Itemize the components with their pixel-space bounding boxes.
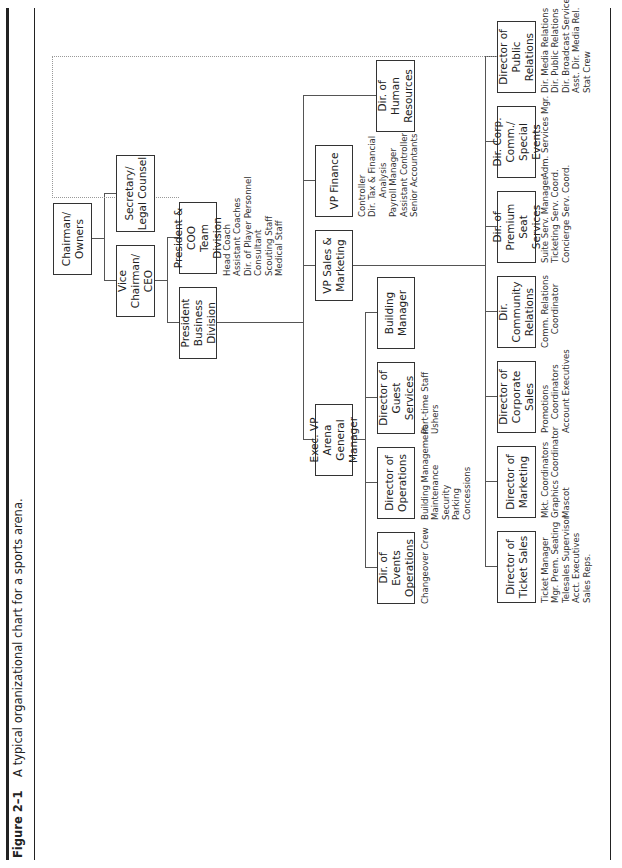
connector [155, 280, 167, 281]
connector [167, 322, 179, 323]
staff-operations: Building Management Maintenance Security… [420, 426, 472, 520]
staff-corporate-sales: Promotions Coordinators Account Executiv… [540, 349, 571, 433]
figure-label: Figure 2–1 [11, 791, 25, 858]
staff-vp-finance: Controller Dir. Tax & Financial Analysis… [357, 133, 419, 217]
bottom-rule [610, 8, 611, 860]
box-premium-seat: Dir. of Premium Seat Services [497, 191, 536, 263]
box-ticket-sales: Director of Ticket Sales [497, 531, 536, 603]
dotted-connector [52, 57, 53, 198]
staff-corp-comm: Adm. Services Mgr. [540, 96, 550, 178]
box-marketing: Director of Marketing [497, 446, 536, 518]
connector [104, 280, 116, 281]
figure-caption: Figure 2–1 A typical organizational char… [11, 498, 25, 858]
connector [104, 193, 116, 194]
box-chairman: Chairman/ Owners [53, 203, 92, 275]
box-public-relations: Director of Public Relations [497, 21, 536, 93]
connector [365, 312, 377, 313]
caption-rule [34, 8, 35, 860]
box-corp-comm: Dir. Corp. Comm./ Special Events [497, 106, 536, 178]
top-thick-rule [6, 8, 9, 860]
connector [167, 237, 168, 323]
box-president-business: President Business Division [179, 287, 217, 359]
staff-ticket-sales: Ticket Manager Mgr. Prem. Seating Telesa… [540, 516, 592, 603]
connector [92, 238, 104, 239]
connector [365, 397, 377, 398]
org-chart-page: Figure 2–1 A typical organizational char… [0, 0, 622, 868]
connector [485, 311, 497, 312]
connector [303, 95, 376, 96]
box-secretary: Secretary/ Legal Counsel [116, 155, 155, 232]
connector [485, 481, 497, 482]
box-exec-vp: Exec. VP Arena General Manager [315, 404, 353, 476]
connector [353, 265, 485, 266]
connector [485, 566, 497, 567]
connector [303, 265, 315, 266]
staff-events-operations: Changeover Crew [420, 528, 430, 604]
connector [365, 567, 377, 568]
box-vp-finance: VP Finance [315, 145, 353, 217]
connector [217, 322, 303, 323]
box-vice-chairman: Vice Chairman/ CEO [116, 245, 155, 317]
staff-marketing: Mkt. Coordinators Graphics Coordinator M… [540, 427, 571, 518]
connector [104, 193, 105, 281]
staff-president-coo: Head Coach Assistant Coaches Dir. of Pla… [222, 176, 284, 276]
staff-guest-services: Part-time Staff Ushers [420, 372, 441, 434]
box-community-relations: Dir. Community Relations [497, 276, 536, 348]
dotted-connector [52, 56, 497, 57]
connector [303, 95, 304, 440]
staff-community-relations: Comm. Relations Coordinator [540, 275, 561, 348]
staff-premium-seat: Suite Serv. Manager Ticketing Serv. Coor… [540, 165, 571, 263]
box-events-operations: Dir. of Events Operations [377, 532, 415, 604]
connector [303, 180, 315, 181]
box-president-coo: President & COO Team Division [179, 202, 217, 274]
box-vp-sales: VP Sales & Marketing [315, 230, 353, 301]
box-operations: Director of Operations [377, 447, 415, 519]
box-corporate-sales: Director of Corporate Sales [497, 361, 536, 433]
connector [485, 396, 497, 397]
staff-public-relations: Dir. Media Relations Dir. Public Relatio… [540, 0, 592, 93]
box-building-manager: Building Manager [377, 277, 415, 349]
box-human-resources: Dir. of Human Resources [376, 60, 415, 132]
connector [365, 312, 366, 568]
box-guest-services: Director of Guest Services [377, 362, 415, 434]
figure-caption-text: A typical organizational chart for a spo… [11, 498, 25, 776]
connector [365, 482, 377, 483]
